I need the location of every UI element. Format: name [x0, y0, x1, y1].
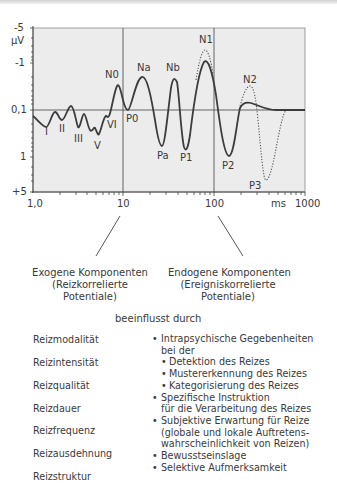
x-label-1: 1,0: [27, 198, 43, 210]
exogenous-subtitle-1: (Reizkorrelierte: [30, 279, 150, 291]
peak-label-P1: P1: [180, 152, 192, 164]
erp-chart: [0, 0, 337, 260]
influenced-by-label: beeinflusst durch: [115, 313, 201, 325]
list-item: •Mustererkennung des Reizes: [152, 368, 313, 380]
peak-label-VI: VI: [107, 119, 117, 131]
x-ticks: [60, 192, 305, 196]
list-item: •Kategorisierung des Reizes: [152, 380, 313, 392]
y-label-plus5: +5: [12, 186, 27, 198]
endogenous-title: Endogene Komponenten: [168, 267, 288, 279]
peak-label-P2: P2: [222, 160, 234, 172]
y-label-minus5: -5: [14, 22, 24, 34]
x-label-100: 100: [205, 198, 224, 210]
exogenous-factor: Reizfrequenz: [33, 425, 95, 436]
figure-caption-cutoff: [0, 481, 200, 489]
exogenous-factor: Reizintensität: [33, 357, 98, 368]
peak-label-P3: P3: [249, 180, 261, 192]
endogenous-subtitle-1: (Ereigniskorrelierte: [168, 279, 288, 291]
peak-label-II: II: [59, 123, 65, 135]
peak-label-N0: N0: [105, 69, 119, 81]
y-unit-label: µV: [11, 35, 24, 47]
exogenous-heading: Exogene Komponenten (Reizkorrelierte Pot…: [30, 267, 150, 303]
peak-label-Na: Na: [137, 62, 151, 74]
branch-line-endogenous: [218, 216, 243, 256]
peak-label-N2: N2: [243, 74, 257, 86]
x-unit-label: ms: [271, 198, 286, 210]
y-label-1: 1: [20, 151, 26, 163]
endogenous-heading: Endogene Komponenten (Ereigniskorreliert…: [168, 267, 288, 303]
list-item: •Selektive Aufmerksamkeit: [152, 462, 313, 474]
list-item: •Detektion des Reizes: [152, 356, 313, 368]
peak-label-III: III: [74, 133, 83, 145]
branch-line-exogenous: [96, 216, 120, 256]
y-label-minus1: -1: [15, 57, 25, 69]
x-label-1000: 1000: [295, 198, 320, 210]
endogenous-subtitle-2: Potentiale): [168, 291, 288, 303]
x-label-10: 10: [117, 198, 130, 210]
peak-label-P0: P0: [126, 113, 138, 125]
exogenous-factor: Reizausdehnung: [33, 448, 112, 459]
exogenous-factor: Reizmodalität: [33, 334, 99, 345]
peak-label-N1: N1: [199, 34, 213, 46]
list-item: •Intrapsychische Gegebenheiten: [152, 333, 313, 345]
exogenous-title: Exogene Komponenten: [30, 267, 150, 279]
peak-label-I: I: [45, 126, 48, 138]
list-item: wahrscheinlichkeit von Reizen): [152, 438, 313, 450]
peak-label-Nb: Nb: [166, 62, 180, 74]
y-label-0-1: 0,1: [11, 104, 27, 116]
exogenous-factor: Reizqualität: [33, 380, 90, 391]
exogenous-factor: Reizdauer: [33, 403, 81, 414]
peak-label-Pa: Pa: [157, 150, 169, 162]
list-item: bei der: [152, 345, 313, 357]
peak-label-V: V: [94, 140, 101, 152]
list-item: (globale und lokale Auftretens-: [152, 427, 313, 439]
list-item: •Subjektive Erwartung für Reize: [152, 415, 313, 427]
exogenous-subtitle-2: Potentiale): [30, 291, 150, 303]
endogenous-factor-list: •Intrapsychische Gegebenheiten bei der •…: [152, 333, 313, 473]
list-item: •Bewusstseinslage: [152, 450, 313, 462]
list-item: •Spezifische Instruktion: [152, 392, 313, 404]
list-item: für die Verarbeitung des Reizes: [152, 403, 313, 415]
